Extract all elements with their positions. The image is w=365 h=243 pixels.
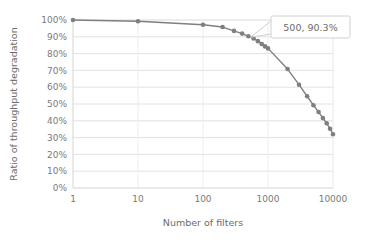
data-point[interactable] xyxy=(305,94,310,99)
x-tick-label: 1 xyxy=(70,194,76,204)
data-point[interactable] xyxy=(240,31,245,36)
data-point[interactable] xyxy=(266,46,271,51)
y-tick-label: 40% xyxy=(47,116,67,126)
data-point[interactable] xyxy=(71,18,76,23)
y-tick-label: 50% xyxy=(47,99,67,109)
y-tick-label: 60% xyxy=(47,82,67,92)
data-point[interactable] xyxy=(136,19,141,24)
y-tick-label: 20% xyxy=(47,150,67,160)
data-point[interactable] xyxy=(324,121,329,126)
data-point[interactable] xyxy=(285,67,290,72)
data-point[interactable] xyxy=(328,126,333,131)
y-tick-label: 100% xyxy=(41,15,67,25)
chart-container: 0%10%20%30%40%50%60%70%80%90%100% 110100… xyxy=(0,0,365,243)
x-tick-label: 10 xyxy=(132,194,144,204)
y-tick-label: 0% xyxy=(53,183,68,193)
callout-label: 500, 90.3% xyxy=(283,22,337,33)
y-tick-label: 80% xyxy=(47,49,67,59)
data-point[interactable] xyxy=(246,34,251,39)
data-point[interactable] xyxy=(311,103,316,108)
data-point[interactable] xyxy=(232,29,237,34)
y-tick-label: 30% xyxy=(47,133,67,143)
y-tick-label: 90% xyxy=(47,32,67,42)
data-point[interactable] xyxy=(256,39,261,44)
x-axis-title: Number of filters xyxy=(163,217,243,228)
y-tick-label: 70% xyxy=(47,66,67,76)
y-tick-label: 10% xyxy=(47,166,67,176)
line-chart: 0%10%20%30%40%50%60%70%80%90%100% 110100… xyxy=(0,0,365,243)
data-point[interactable] xyxy=(220,25,225,30)
y-axis-title: Ratio of throughput degradation xyxy=(8,27,19,180)
x-tick-label: 100 xyxy=(194,194,211,204)
data-point[interactable] xyxy=(331,132,336,137)
x-tick-label: 10000 xyxy=(319,194,348,204)
data-point[interactable] xyxy=(201,22,206,27)
data-point[interactable] xyxy=(316,110,321,115)
x-tick-label: 1000 xyxy=(257,194,280,204)
data-point[interactable] xyxy=(297,82,302,87)
data-point[interactable] xyxy=(321,116,326,121)
